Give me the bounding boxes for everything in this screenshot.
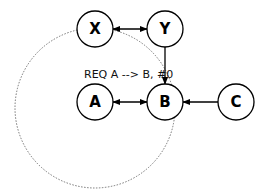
node-b[interactable]: B xyxy=(147,84,183,120)
node-c[interactable]: C xyxy=(218,84,254,120)
node-x[interactable]: X xyxy=(77,11,113,47)
node-a-label: A xyxy=(89,93,101,111)
request-annotation: REQ A --> B, #0 xyxy=(84,68,173,81)
node-x-label: X xyxy=(89,20,101,38)
node-a[interactable]: A xyxy=(77,84,113,120)
node-y-label: Y xyxy=(159,20,172,38)
graph-diagram: X Y A B C REQ A --> B, #0 xyxy=(0,0,269,191)
node-b-label: B xyxy=(159,93,170,111)
node-c-label: C xyxy=(230,93,241,111)
node-y[interactable]: Y xyxy=(147,11,183,47)
